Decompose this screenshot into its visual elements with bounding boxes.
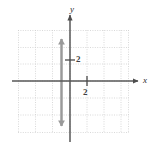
coordinate-plane [0, 0, 157, 153]
x-axis-tick-label-2: 2 [83, 88, 88, 97]
y-axis-label: y [70, 5, 74, 14]
graph-figure: 2 2 y x [0, 0, 157, 153]
x-axis-label: x [143, 76, 147, 85]
y-axis-tick-label-2: 2 [76, 55, 81, 64]
